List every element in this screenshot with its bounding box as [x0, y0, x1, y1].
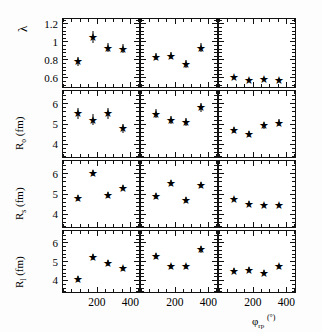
- plot-panel-r2-c0: ★★★★: [62, 160, 140, 228]
- y-tick-minor: [63, 169, 66, 170]
- x-tick-minor: [294, 84, 295, 87]
- x-tick-top-minor: [122, 91, 123, 94]
- x-tick-minor: [113, 154, 114, 157]
- y-tick-minor: [141, 198, 144, 199]
- x-tick-top-minor: [141, 161, 142, 164]
- y-tick-major-right: [212, 173, 217, 174]
- y-tick-minor-right: [292, 34, 295, 35]
- x-tick-top-minor: [166, 231, 167, 234]
- y-tick-label: 6: [28, 237, 58, 248]
- y-tick-minor-right: [136, 45, 139, 46]
- x-tick-label: 200: [166, 297, 183, 309]
- y-tick-minor-right: [292, 70, 295, 71]
- y-tick-minor: [63, 246, 66, 247]
- y-tick-minor-right: [292, 284, 295, 285]
- x-tick-top-major: [208, 231, 209, 236]
- x-tick-top-major: [97, 231, 98, 236]
- x-tick-top-minor: [200, 231, 201, 234]
- y-tick-minor-right: [292, 140, 295, 141]
- y-tick-minor: [63, 116, 66, 117]
- x-tick-minor: [71, 289, 72, 292]
- x-tick-minor: [141, 154, 142, 157]
- y-tick-major-right: [212, 242, 217, 243]
- y-tick-label: 6: [28, 98, 58, 109]
- x-tick-minor: [200, 154, 201, 157]
- error-bar: [264, 270, 265, 275]
- x-tick-minor: [269, 154, 270, 157]
- y-tick-major-right: [290, 124, 295, 125]
- x-tick-top-minor: [278, 91, 279, 94]
- y-tick-minor: [141, 70, 144, 71]
- x-tick-top-minor: [88, 161, 89, 164]
- y-tick-minor: [141, 239, 144, 240]
- y-tick-major-right: [290, 103, 295, 104]
- y-tick-major: [63, 124, 68, 125]
- y-tick-minor-right: [292, 99, 295, 100]
- error-bar: [78, 276, 79, 281]
- y-tick-minor: [219, 276, 222, 277]
- x-tick-top-major: [175, 91, 176, 96]
- x-tick-top-major: [286, 231, 287, 236]
- x-tick-minor: [105, 224, 106, 227]
- error-bar: [234, 197, 235, 201]
- x-tick-minor: [183, 84, 184, 87]
- x-tick-major: [208, 82, 209, 87]
- x-tick-top-minor: [113, 91, 114, 94]
- x-tick-top-minor: [141, 19, 142, 22]
- plot-area: ★★★★: [63, 91, 139, 157]
- x-tick-minor: [244, 154, 245, 157]
- error-bar: [93, 31, 94, 44]
- y-tick-minor: [63, 34, 66, 35]
- y-tick-minor-right: [214, 257, 217, 258]
- y-tick-minor-right: [214, 181, 217, 182]
- y-tick-minor: [219, 235, 222, 236]
- y-tick-label: 5: [28, 189, 58, 200]
- x-tick-minor: [158, 289, 159, 292]
- y-tick-minor-right: [214, 165, 217, 166]
- y-tick-minor-right: [292, 181, 295, 182]
- y-tick-minor: [141, 31, 144, 32]
- x-tick-top-minor: [63, 231, 64, 234]
- y-tick-minor: [63, 111, 66, 112]
- x-tick-top-minor: [158, 91, 159, 94]
- x-tick-top-minor: [191, 231, 192, 234]
- y-tick-major-right: [290, 23, 295, 24]
- y-tick-minor-right: [136, 74, 139, 75]
- y-tick-minor-right: [136, 81, 139, 82]
- y-tick-minor: [219, 99, 222, 100]
- y-tick-major: [141, 144, 146, 145]
- x-tick-top-minor: [236, 161, 237, 164]
- y-tick-minor-right: [214, 140, 217, 141]
- x-tick-major: [253, 152, 254, 157]
- y-tick-minor: [63, 49, 66, 50]
- y-tick-minor: [141, 169, 144, 170]
- y-tick-minor: [141, 132, 144, 133]
- y-tick-minor-right: [214, 148, 217, 149]
- x-tick-major: [253, 222, 254, 227]
- plot-area: ★★★★: [219, 231, 295, 292]
- y-tick-minor: [219, 27, 222, 28]
- x-tick-minor: [183, 224, 184, 227]
- x-tick-top-minor: [219, 161, 220, 164]
- plot-area: ★★★★: [141, 91, 217, 157]
- y-tick-major-right: [134, 173, 139, 174]
- x-tick-minor: [71, 84, 72, 87]
- x-tick-top-minor: [227, 19, 228, 22]
- y-tick-minor: [141, 190, 144, 191]
- y-tick-minor: [219, 169, 222, 170]
- y-tick-minor: [63, 31, 66, 32]
- y-tick-minor: [141, 269, 144, 270]
- y-tick-minor-right: [214, 246, 217, 247]
- x-tick-major: [130, 222, 131, 227]
- y-tick-minor-right: [214, 81, 217, 82]
- x-tick-minor: [200, 289, 201, 292]
- y-tick-minor: [63, 52, 66, 53]
- y-tick-minor: [63, 269, 66, 270]
- y-tick-minor: [141, 27, 144, 28]
- y-tick-minor: [141, 284, 144, 285]
- y-tick-minor: [219, 45, 222, 46]
- y-tick-minor-right: [136, 198, 139, 199]
- x-tick-top-major: [253, 161, 254, 166]
- y-tick-minor-right: [292, 254, 295, 255]
- error-bar: [264, 77, 265, 81]
